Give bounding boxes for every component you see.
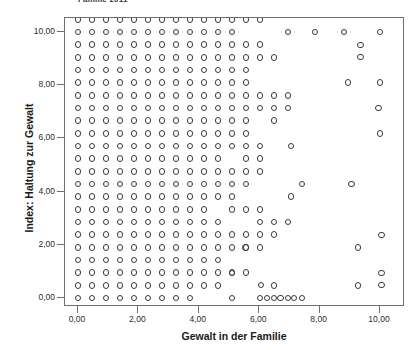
data-point (103, 193, 109, 199)
data-point (89, 67, 95, 73)
data-point (285, 29, 291, 35)
data-point (131, 54, 137, 60)
data-point (187, 282, 193, 288)
data-point (117, 219, 123, 225)
plot-area (64, 17, 404, 306)
data-point (285, 92, 291, 98)
data-point (215, 117, 221, 123)
data-point (215, 282, 221, 288)
data-point (215, 130, 221, 136)
data-point (243, 206, 249, 212)
data-point (187, 181, 193, 187)
data-point (271, 92, 277, 98)
data-point (103, 219, 109, 225)
data-point (75, 295, 81, 301)
data-point (173, 155, 179, 161)
data-point (75, 168, 81, 174)
data-point (173, 257, 179, 263)
data-point (103, 79, 109, 85)
data-point (103, 206, 109, 212)
data-point (145, 269, 151, 275)
data-point (145, 219, 151, 225)
data-point (117, 193, 123, 199)
x-axis-tick-label: 10,00 (354, 314, 404, 324)
data-point (187, 168, 193, 174)
data-point (75, 193, 81, 199)
data-point (299, 295, 305, 301)
data-point (215, 231, 221, 237)
data-point (201, 117, 207, 123)
data-point (89, 92, 95, 98)
data-point (173, 143, 179, 149)
data-point (243, 18, 249, 23)
data-point (201, 168, 207, 174)
data-point (159, 244, 165, 250)
data-point (187, 193, 193, 199)
data-point (173, 193, 179, 199)
data-point (201, 130, 207, 136)
data-point (271, 282, 277, 288)
data-point (173, 92, 179, 98)
data-point (75, 206, 81, 212)
data-point (257, 143, 263, 149)
data-point (159, 41, 165, 47)
data-point (187, 92, 193, 98)
data-point (159, 29, 165, 35)
data-point (229, 67, 235, 73)
data-point (378, 232, 384, 238)
data-point (271, 105, 277, 111)
data-point (145, 117, 151, 123)
data-point (229, 206, 235, 212)
data-point (201, 54, 207, 60)
data-point (89, 295, 95, 301)
data-point (103, 18, 109, 23)
data-point (159, 257, 165, 263)
y-axis-tick (57, 297, 64, 298)
data-point (257, 219, 263, 225)
data-point (131, 231, 137, 237)
data-point (131, 206, 137, 212)
data-point (159, 269, 165, 275)
data-point (159, 206, 165, 212)
data-point (215, 244, 221, 250)
data-point (75, 231, 81, 237)
data-point (89, 29, 95, 35)
data-point (75, 54, 81, 60)
x-axis-tick-label: 4,00 (173, 314, 223, 324)
data-point (159, 18, 165, 23)
data-point (229, 41, 235, 47)
data-point (75, 244, 81, 250)
data-point (257, 231, 263, 237)
data-point (159, 155, 165, 161)
data-point (145, 181, 151, 187)
data-point (187, 143, 193, 149)
data-point (243, 41, 249, 47)
x-axis-tick-label: 6,00 (233, 314, 283, 324)
data-point (201, 105, 207, 111)
data-point (117, 282, 123, 288)
data-point (271, 231, 277, 237)
data-point (145, 231, 151, 237)
data-point (89, 41, 95, 47)
data-point (377, 29, 383, 35)
data-point (187, 67, 193, 73)
data-point (187, 130, 193, 136)
data-point (75, 92, 81, 98)
data-point (378, 282, 384, 288)
data-point (75, 181, 81, 187)
data-point (285, 219, 291, 225)
data-point (173, 41, 179, 47)
data-point (173, 282, 179, 288)
data-point (117, 105, 123, 111)
data-point (131, 117, 137, 123)
data-point (229, 193, 235, 199)
data-point (117, 269, 123, 275)
data-point (229, 18, 235, 23)
data-point (187, 295, 193, 301)
data-point (117, 244, 123, 250)
data-point (173, 219, 179, 225)
data-point (215, 18, 221, 23)
data-point (173, 231, 179, 237)
data-point (145, 244, 151, 250)
data-point (215, 67, 221, 73)
